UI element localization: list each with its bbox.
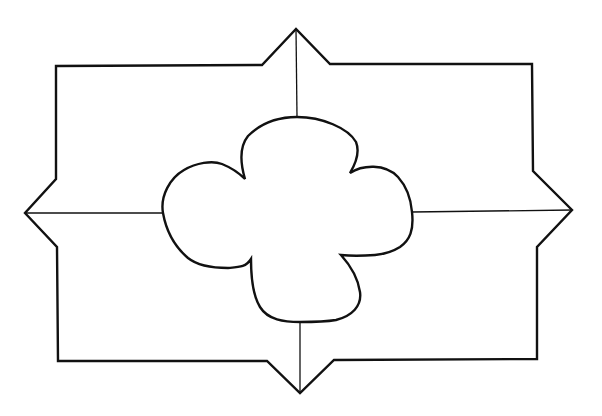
panel-drawing	[0, 0, 602, 416]
diagram-canvas	[0, 0, 602, 416]
horizontal-divider-right	[412, 210, 572, 212]
center-quatrefoil	[162, 117, 412, 322]
vertical-divider-top	[296, 29, 297, 117]
